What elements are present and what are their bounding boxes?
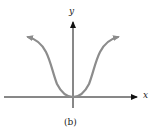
y-axis-label: y bbox=[69, 6, 74, 16]
function-graph-figure: y x (b) bbox=[0, 0, 152, 136]
curve-right-branch bbox=[73, 37, 118, 97]
graph-canvas bbox=[0, 0, 152, 136]
figure-caption: (b) bbox=[64, 117, 77, 127]
curve-left-branch bbox=[28, 37, 73, 97]
x-axis-label: x bbox=[143, 90, 148, 100]
